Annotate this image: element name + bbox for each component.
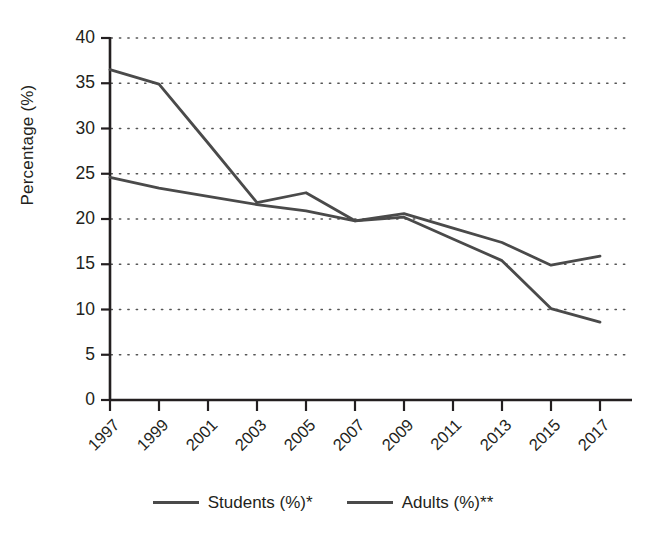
legend-item-adults: Adults (%)** (347, 494, 494, 511)
x-axis-tick-marks (110, 400, 600, 411)
line-chart: Percentage (%) 0510152025303540 19971999… (0, 0, 646, 538)
plot-area (0, 0, 646, 538)
chart-legend: Students (%)* Adults (%)** (0, 494, 646, 511)
data-series-lines (110, 70, 600, 322)
legend-line-swatch-students (153, 501, 199, 504)
gridlines (111, 38, 630, 355)
y-axis-tick-marks (101, 38, 110, 400)
legend-line-swatch-adults (347, 501, 393, 504)
series-line-students (110, 70, 600, 322)
legend-label-adults: Adults (%)** (402, 494, 494, 511)
legend-label-students: Students (%)* (208, 494, 313, 511)
series-line-adults (110, 177, 600, 265)
legend-item-students: Students (%)* (153, 494, 313, 511)
